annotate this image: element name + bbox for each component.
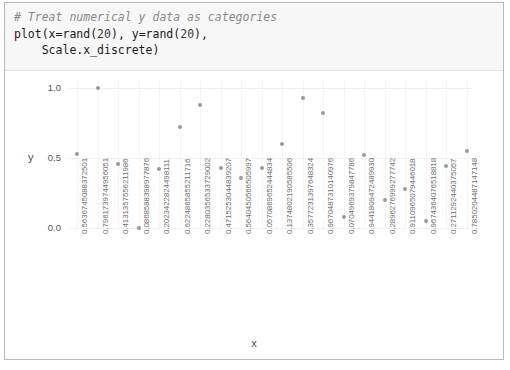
gridline-vertical (405, 80, 406, 228)
data-point (362, 153, 366, 157)
code-cell[interactable]: # Treat numerical y data as categories p… (5, 3, 503, 71)
gridline-vertical (262, 80, 263, 228)
gridline-vertical (426, 80, 427, 228)
x-tick-label: 0.1374802190585506 (285, 158, 294, 234)
x-tick-label: 0.7961739744956051 (101, 158, 110, 234)
gridline-vertical (446, 80, 447, 228)
gridline-vertical (303, 80, 304, 228)
clipped-text-below-cell (300, 361, 505, 370)
x-tick-label: 0.2711292440375057 (449, 159, 458, 234)
gridline-vertical (118, 80, 119, 228)
data-point (403, 187, 407, 191)
gridline-vertical (323, 80, 324, 228)
x-tick-label: 0.7850204487147148 (470, 158, 479, 234)
y-tick-label: 0.0 (31, 222, 61, 233)
code-line-scale: Scale.x_discrete) (14, 42, 503, 59)
gridline-horizontal (67, 88, 473, 89)
data-point (198, 103, 202, 107)
x-tick-label: 0.4715253044839207 (224, 158, 233, 234)
gridline-vertical (344, 80, 345, 228)
code-token-plot-call: plot(x=rand( (14, 27, 97, 41)
x-tick-label: 0.9110965079446018 (408, 159, 417, 234)
notebook-cell: # Treat numerical y data as categories p… (4, 2, 504, 360)
x-tick-label: 0.9670487310140976 (326, 158, 335, 234)
x-tick-label: 0.9441809472489930 (367, 158, 376, 234)
data-point (239, 176, 243, 180)
x-tick-label: 0.0868588398977876 (142, 158, 151, 234)
x-tick-label: 0.6224865855211716 (183, 159, 192, 234)
x-tick-label: 0.4131357556211986 (121, 159, 130, 234)
gridline-vertical (282, 80, 283, 228)
gridline-vertical (467, 80, 468, 228)
gridline-vertical (221, 80, 222, 228)
x-tick-label: 0.5636745088372501 (80, 158, 89, 234)
gridline-vertical (241, 80, 242, 228)
code-token-post: ), (194, 27, 208, 41)
code-token-number-1: 20 (97, 27, 111, 41)
data-point (342, 215, 346, 219)
x-tick-label: 0.3577231397648324 (306, 158, 315, 234)
data-point (383, 198, 387, 202)
scatter-plot: 1.00.50.0 y 0.56367450883725010.79617397… (5, 72, 503, 360)
x-tick-label: 0.5640450566505997 (244, 158, 253, 234)
code-line-plot: plot(x=rand(20), y=rand(20), (14, 26, 503, 43)
data-point (444, 164, 448, 168)
data-point (321, 111, 325, 115)
code-comment-line: # Treat numerical y data as categories (14, 9, 503, 26)
y-tick-label: 1.0 (31, 82, 61, 93)
code-token-number-2: 20 (180, 27, 194, 41)
data-point (219, 166, 223, 170)
code-token-mid: ), y=rand( (111, 27, 180, 41)
x-tick-label: 0.0704969379847786 (347, 158, 356, 234)
y-tick-label: 0.5 (31, 152, 61, 163)
gridline-vertical (159, 80, 160, 228)
data-point (75, 152, 79, 156)
x-tick-label: 0.2023422824498111 (162, 159, 171, 234)
data-point (424, 219, 428, 223)
data-point (465, 149, 469, 153)
data-point (280, 142, 284, 146)
gridline-vertical (139, 80, 140, 228)
y-axis-label: y (28, 151, 34, 163)
data-point (137, 226, 141, 230)
data-point (157, 167, 161, 171)
gridline-vertical (180, 80, 181, 228)
data-point (301, 96, 305, 100)
data-point (178, 125, 182, 129)
x-tick-label: 0.9674364076518818 (429, 158, 438, 234)
gridline-vertical (98, 80, 99, 228)
x-tick-label: 0.0570869652444834 (265, 158, 274, 234)
gridline-vertical (385, 80, 386, 228)
x-tick-label: 0.2896276999277742 (388, 158, 397, 234)
data-point (116, 162, 120, 166)
data-point (96, 86, 100, 90)
x-tick-label: 0.2280356533729002 (203, 158, 212, 234)
data-point (260, 166, 264, 170)
x-axis-label: x (5, 337, 503, 349)
